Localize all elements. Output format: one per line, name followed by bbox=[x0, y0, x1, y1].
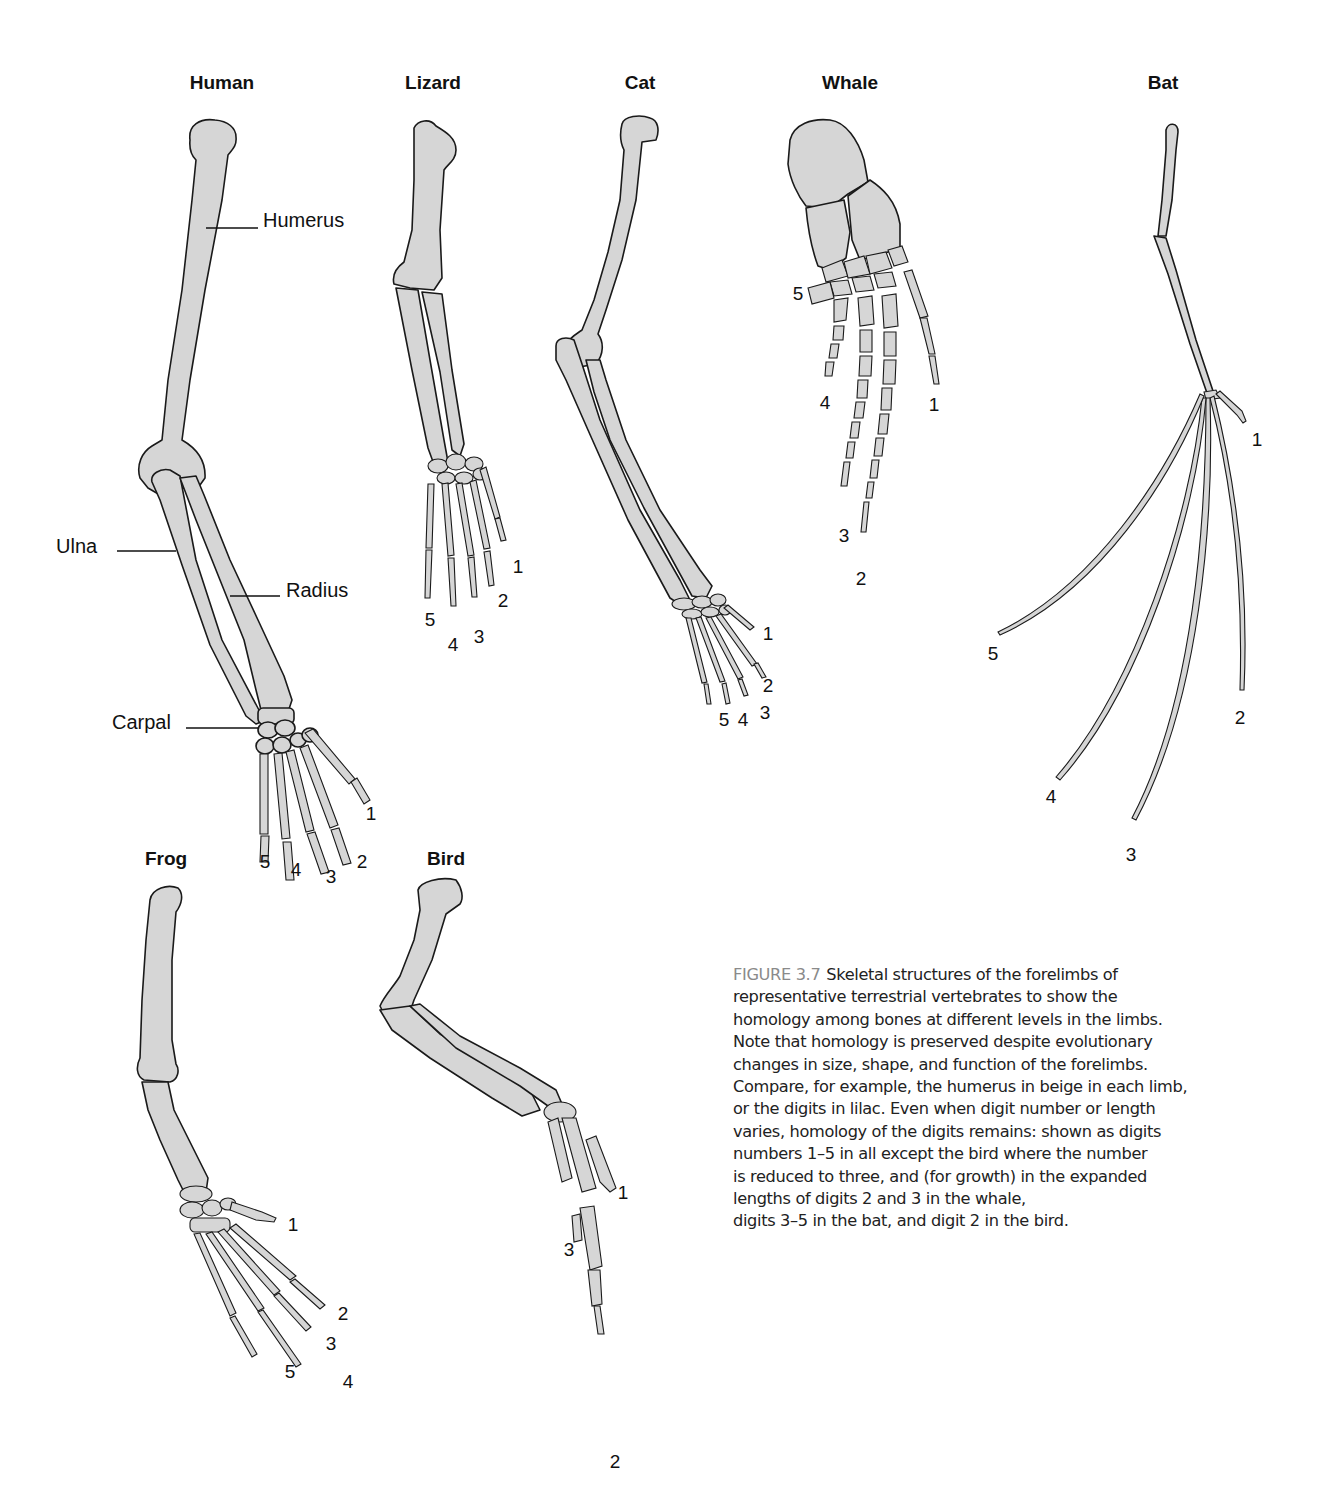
lizard-humerus bbox=[393, 121, 456, 290]
bat-digits bbox=[998, 391, 1246, 820]
forelimb-homology-figure: Human Lizard Cat Whale Bat Frog Bird Hum… bbox=[0, 0, 1329, 1490]
whale-radius bbox=[848, 180, 900, 260]
caption-line-9: numbers 1–5 in all except the bird where… bbox=[733, 1143, 1329, 1165]
bird-digit-1-label: 1 bbox=[618, 1182, 629, 1204]
figure-caption: FIGURE 3.7Skeletal structures of the for… bbox=[733, 964, 1329, 1233]
bat-radius bbox=[1154, 236, 1214, 396]
human-digit-1-label: 1 bbox=[366, 803, 377, 825]
frog-digit-2-label: 2 bbox=[338, 1303, 349, 1325]
human-digit-2-label: 2 bbox=[357, 851, 368, 873]
bat-digit-2-label: 2 bbox=[1235, 707, 1246, 729]
frog-radioulna bbox=[142, 1082, 208, 1196]
caption-line-2: representative terrestrial vertebrates t… bbox=[733, 986, 1329, 1008]
caption-line-3: homology among bones at different levels… bbox=[733, 1009, 1329, 1031]
cat-title: Cat bbox=[625, 72, 656, 94]
bird-humerus bbox=[380, 879, 462, 1014]
bat-digit-5 bbox=[998, 394, 1204, 635]
cat-humerus bbox=[564, 116, 658, 368]
bird-digit-3 bbox=[572, 1214, 582, 1242]
cat-digit-1-label: 1 bbox=[763, 623, 774, 645]
cat-digit-4-label: 4 bbox=[738, 709, 749, 731]
bat-humerus bbox=[1158, 124, 1178, 236]
bird-ulna bbox=[380, 1006, 540, 1116]
bat-digit-2 bbox=[1210, 396, 1245, 690]
lizard-title: Lizard bbox=[405, 72, 461, 94]
frog-forelimb bbox=[137, 887, 325, 1368]
bat-digit-4 bbox=[1056, 398, 1206, 780]
caption-line-5: changes in size, shape, and function of … bbox=[733, 1054, 1329, 1076]
whale-digit-4-label: 4 bbox=[820, 392, 831, 414]
bat-digit-3-label: 3 bbox=[1126, 844, 1137, 866]
whale-digit-3-label: 3 bbox=[839, 525, 850, 547]
bat-title: Bat bbox=[1148, 72, 1179, 94]
whale-digit-1-label: 1 bbox=[929, 394, 940, 416]
caption-line-10: is reduced to three, and (for growth) in… bbox=[733, 1166, 1329, 1188]
lizard-digit-3-label: 3 bbox=[474, 626, 485, 648]
human-humerus bbox=[139, 120, 236, 495]
human-digit-5-label: 5 bbox=[260, 851, 271, 873]
frog-digit-4-label: 4 bbox=[343, 1371, 354, 1393]
cat-digit-2-label: 2 bbox=[763, 675, 774, 697]
frog-digit-5-label: 5 bbox=[285, 1361, 296, 1383]
caption-line-1: FIGURE 3.7Skeletal structures of the for… bbox=[733, 964, 1329, 986]
humerus-label: Humerus bbox=[263, 209, 344, 232]
lizard-digit-5-label: 5 bbox=[425, 609, 436, 631]
bird-title: Bird bbox=[427, 848, 465, 870]
human-title: Human bbox=[190, 72, 254, 94]
frog-digit-3-label: 3 bbox=[326, 1333, 337, 1355]
caption-line-12: digits 3–5 in the bat, and digit 2 in th… bbox=[733, 1210, 1329, 1232]
caption-line-6: Compare, for example, the humerus in bei… bbox=[733, 1076, 1329, 1098]
bird-digit-2-label: 2 bbox=[610, 1451, 621, 1473]
cat-forelimb bbox=[556, 116, 766, 704]
caption-line-4: Note that homology is preserved despite … bbox=[733, 1031, 1329, 1053]
human-forelimb bbox=[139, 120, 370, 880]
lizard-digits bbox=[425, 467, 506, 606]
bat-digit-1 bbox=[1216, 391, 1246, 423]
bird-forelimb bbox=[380, 879, 616, 1334]
lizard-digit-4-label: 4 bbox=[448, 634, 459, 656]
cat-digits bbox=[686, 605, 766, 704]
lizard-forelimb bbox=[393, 121, 506, 606]
bird-digit-2b bbox=[588, 1270, 602, 1306]
figure-number: FIGURE 3.7 bbox=[733, 965, 820, 984]
bat-digit-1-label: 1 bbox=[1252, 429, 1263, 451]
running-header-cutoff bbox=[0, 0, 1329, 6]
whale-digit-2-label: 2 bbox=[856, 568, 867, 590]
whale-title: Whale bbox=[822, 72, 878, 94]
whale-digit-5-label: 5 bbox=[793, 283, 804, 305]
bat-forelimb bbox=[998, 124, 1246, 820]
frog-digit-1-label: 1 bbox=[288, 1214, 299, 1236]
bird-digit-3-label: 3 bbox=[564, 1239, 575, 1261]
frog-title: Frog bbox=[145, 848, 187, 870]
lizard-carpals bbox=[428, 454, 487, 484]
whale-ulna bbox=[806, 200, 850, 270]
bat-digit-5-label: 5 bbox=[988, 643, 999, 665]
cat-ulna bbox=[556, 338, 690, 606]
carpal-label: Carpal bbox=[112, 711, 171, 734]
caption-line-8: varies, homology of the digits remains: … bbox=[733, 1121, 1329, 1143]
lizard-digit-1-label: 1 bbox=[513, 556, 524, 578]
human-digit-4-label: 4 bbox=[291, 859, 302, 881]
caption-line-11: lengths of digits 2 and 3 in the whale, bbox=[733, 1188, 1329, 1210]
bat-digit-4-label: 4 bbox=[1046, 786, 1057, 808]
frog-carpals bbox=[180, 1186, 236, 1232]
human-digit-3-label: 3 bbox=[326, 866, 337, 888]
skeleton-drawings bbox=[0, 0, 1329, 1490]
lizard-digit-2-label: 2 bbox=[498, 590, 509, 612]
cat-digit-3-label: 3 bbox=[760, 702, 771, 724]
whale-forelimb bbox=[788, 120, 939, 532]
cat-digit-5-label: 5 bbox=[719, 709, 730, 731]
bird-digit-2c bbox=[594, 1306, 604, 1334]
bird-digit-2a bbox=[580, 1206, 602, 1270]
caption-line-7: or the digits in lilac. Even when digit … bbox=[733, 1098, 1329, 1120]
radius-label: Radius bbox=[286, 579, 348, 602]
ulna-label: Ulna bbox=[56, 535, 97, 558]
cat-radius bbox=[586, 360, 712, 598]
frog-humerus bbox=[137, 887, 181, 1083]
bird-carpometacarpus bbox=[548, 1118, 596, 1192]
